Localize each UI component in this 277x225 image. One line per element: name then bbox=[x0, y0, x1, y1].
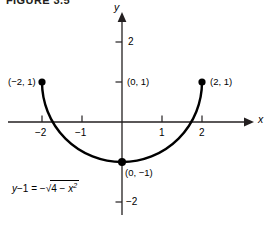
y-tick-label--2: −2 bbox=[126, 197, 137, 207]
point-label-right-endpoint: (2, 1) bbox=[210, 77, 232, 87]
x-axis-arrow-icon bbox=[244, 118, 254, 127]
x-tick-label--2: −2 bbox=[35, 128, 46, 138]
x-tick-label-1: 1 bbox=[159, 128, 165, 138]
point-label-vertex: (0, −1) bbox=[125, 168, 153, 178]
point-left-endpoint bbox=[38, 78, 45, 85]
equation-equals: = bbox=[31, 183, 37, 194]
x-axis-label: x bbox=[258, 114, 263, 125]
radicand-constant: 4 − bbox=[51, 183, 68, 194]
x-tick-label-2: 2 bbox=[199, 128, 205, 138]
figure-container: FIGURE 3.5 x y −2 −1 1 2 2 −2 (−2, 1) bbox=[0, 0, 277, 225]
equation-label: y−1 = −√4 − x2 bbox=[12, 180, 79, 194]
point-label-origin-one: (0, 1) bbox=[127, 77, 149, 87]
equation-lhs-const: 1 bbox=[23, 183, 29, 194]
y-tick-label-2: 2 bbox=[128, 37, 134, 47]
point-label-left-endpoint: (−2, 1) bbox=[8, 77, 36, 87]
equation-radicand: 4 − x2 bbox=[50, 180, 79, 194]
point-right-endpoint bbox=[198, 78, 205, 85]
y-axis-arrow-icon bbox=[118, 12, 127, 22]
y-axis-label: y bbox=[114, 2, 119, 13]
radicand-exponent: 2 bbox=[73, 182, 77, 189]
x-tick-label--1: −1 bbox=[75, 128, 86, 138]
point-vertex bbox=[118, 158, 126, 166]
